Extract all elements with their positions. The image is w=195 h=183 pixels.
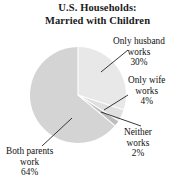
slice-label-both-parents-work: Both parents work 64% (6, 146, 53, 178)
slice-label-line-2: work (6, 157, 53, 168)
slice-value-only-husband-works: 30% (113, 57, 165, 68)
slice-label-line-2: works (113, 47, 165, 58)
slice-label-only-husband-works: Only husband works 30% (113, 36, 165, 68)
slice-label-only-wife-works: Only wife works 4% (128, 75, 165, 107)
slice-value-neither-works: 2% (124, 148, 152, 159)
pie-chart-figure: U.S. Households: Married with Children O… (0, 0, 195, 183)
slice-value-only-wife-works: 4% (128, 96, 165, 107)
slice-label-neither-works: Neither works 2% (124, 127, 152, 159)
slice-label-line-1: Only wife (128, 75, 165, 86)
slice-label-line-1: Only husband (113, 36, 165, 47)
slice-value-both-parents-work: 64% (6, 167, 53, 178)
slice-label-line-2: works (128, 86, 165, 97)
slice-label-line-1: Neither (124, 127, 152, 138)
slice-label-line-1: Both parents (6, 146, 53, 157)
slice-label-line-2: works (124, 138, 152, 149)
